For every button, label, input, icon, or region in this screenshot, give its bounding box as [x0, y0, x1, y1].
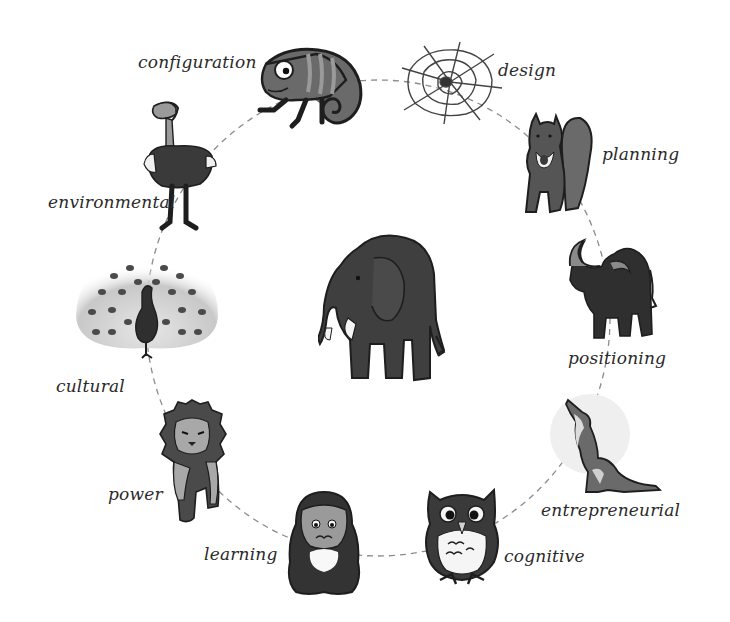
elephant-icon	[318, 228, 448, 386]
lion-icon	[154, 396, 230, 526]
peacock-icon	[72, 252, 222, 370]
buffalo-icon	[566, 236, 658, 344]
node-label-learning: learning	[204, 544, 278, 564]
squirrel-icon	[520, 112, 594, 218]
node-label-entrepreneurial: entrepreneurial	[541, 500, 680, 520]
chameleon-icon	[256, 44, 368, 134]
node-label-planning: planning	[602, 144, 679, 164]
wolf-icon	[548, 392, 666, 500]
ape-icon	[286, 488, 362, 598]
node-label-configuration: configuration	[138, 52, 257, 72]
spider-web-icon	[394, 40, 506, 124]
owl-icon	[422, 484, 502, 588]
node-label-environmental: environmental	[48, 192, 176, 212]
node-label-cultural: cultural	[56, 376, 125, 396]
strategy-safari-diagram: configuration design planning	[0, 0, 730, 622]
node-label-positioning: positioning	[568, 348, 666, 368]
node-label-power: power	[108, 484, 163, 504]
node-label-design: design	[498, 60, 556, 80]
node-label-cognitive: cognitive	[504, 546, 585, 566]
ostrich-icon	[140, 98, 220, 234]
